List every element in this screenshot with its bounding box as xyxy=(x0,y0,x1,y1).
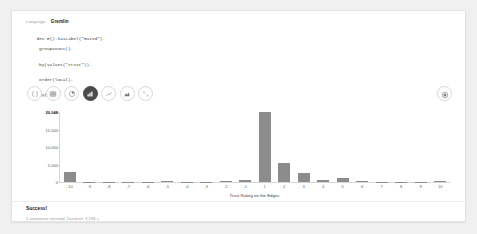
view-button-area-chart[interactable] xyxy=(120,86,135,101)
language-label: Language: xyxy=(26,19,47,24)
y-axis-tick xyxy=(58,130,60,131)
x-axis-tick-label: -7 xyxy=(126,184,130,189)
view-button-line-chart[interactable] xyxy=(101,86,116,101)
code-braces-icon xyxy=(31,90,39,98)
y-axis-tick xyxy=(58,112,60,113)
y-axis-tick xyxy=(58,182,60,183)
line-chart-icon xyxy=(105,90,113,98)
bar[interactable] xyxy=(239,180,251,182)
x-axis-tick-label: -6 xyxy=(146,184,150,189)
code-line: order(local). xyxy=(26,77,105,82)
bar-group[interactable]: 1 xyxy=(255,112,275,182)
y-axis-tick xyxy=(58,165,60,166)
bar[interactable] xyxy=(434,181,446,182)
x-axis-title: Trust Rating on the Edges xyxy=(59,193,450,198)
bar[interactable] xyxy=(298,173,310,182)
code-line: groupCount(). xyxy=(26,46,105,51)
bar-group[interactable]: 7 xyxy=(372,112,392,182)
x-axis-tick-label: -1 xyxy=(243,184,247,189)
x-axis-tick-label: 5 xyxy=(342,184,344,189)
y-axis-tick-label: 20,048 xyxy=(45,110,58,115)
code-line: dev.E().hasLabel("Rated"). xyxy=(37,36,106,41)
bar[interactable] xyxy=(161,181,173,182)
x-axis-tick-label: 4 xyxy=(322,184,324,189)
bar-chart: -10-9-8-7-6-5-4-3-2-112345678910 20,0481… xyxy=(26,109,454,201)
x-axis-tick-label: -3 xyxy=(204,184,208,189)
pie-chart-icon xyxy=(68,90,76,98)
bar-group[interactable]: -3 xyxy=(197,112,217,182)
x-axis-tick-label: 9 xyxy=(420,184,422,189)
x-axis-tick-label: -4 xyxy=(185,184,189,189)
bar[interactable] xyxy=(220,181,232,182)
x-axis-tick-label: 3 xyxy=(303,184,305,189)
x-axis-tick-label: 10 xyxy=(438,184,443,189)
bar-group[interactable]: 5 xyxy=(333,112,353,182)
area-chart-icon xyxy=(123,90,131,98)
bar-group[interactable]: 10 xyxy=(431,112,451,182)
bar[interactable] xyxy=(356,181,368,182)
code-line: by(values("trust")). xyxy=(26,62,105,67)
bar-group[interactable]: -5 xyxy=(158,112,178,182)
x-axis-tick-label: 6 xyxy=(361,184,363,189)
status-message: Success! xyxy=(26,206,47,211)
bar-group[interactable]: -10 xyxy=(60,112,80,182)
gear-icon xyxy=(441,85,449,103)
bar-group[interactable]: -8 xyxy=(99,112,119,182)
bar-group[interactable]: 6 xyxy=(353,112,373,182)
query-meta: 1 statement returned. Duration: 3.196 s xyxy=(26,216,99,221)
x-axis-tick-label: 7 xyxy=(381,184,383,189)
x-axis-tick-label: -5 xyxy=(165,184,169,189)
bar-group[interactable]: 2 xyxy=(275,112,295,182)
bar-group[interactable]: 3 xyxy=(294,112,314,182)
chart-settings-button[interactable] xyxy=(437,86,452,101)
bar[interactable] xyxy=(317,180,329,182)
y-axis-tick xyxy=(58,147,60,148)
view-button-pie-chart[interactable] xyxy=(64,86,79,101)
bar-chart-icon xyxy=(86,90,94,98)
x-axis-tick-label: 2 xyxy=(283,184,285,189)
x-axis-tick-label: 1 xyxy=(264,184,266,189)
query-result-card: Language: Gremlin dev.E().hasLabel("Rate… xyxy=(11,10,466,222)
view-button-bar-chart[interactable] xyxy=(83,86,98,101)
bar-group[interactable]: -7 xyxy=(119,112,139,182)
view-button-code[interactable] xyxy=(27,86,42,101)
bar[interactable] xyxy=(337,178,349,182)
bar-series: -10-9-8-7-6-5-4-3-2-112345678910 xyxy=(60,112,450,182)
view-mode-toolbar xyxy=(27,86,153,101)
table-icon xyxy=(49,90,57,98)
x-axis-tick-label: -2 xyxy=(224,184,228,189)
bar[interactable] xyxy=(259,112,271,182)
x-axis-tick-label: 8 xyxy=(400,184,402,189)
footer-divider xyxy=(12,201,465,202)
bar-group[interactable]: -4 xyxy=(177,112,197,182)
view-button-graph[interactable] xyxy=(138,86,153,101)
y-axis-tick-label: 10,000 xyxy=(45,145,58,150)
language-row: Language: Gremlin xyxy=(26,19,69,24)
language-value: Gremlin xyxy=(51,19,69,24)
bar-group[interactable]: -6 xyxy=(138,112,158,182)
bar-group[interactable]: 8 xyxy=(392,112,412,182)
graph-network-icon xyxy=(142,90,150,98)
x-axis-tick-label: -9 xyxy=(87,184,91,189)
bar-group[interactable]: -1 xyxy=(236,112,256,182)
bar-group[interactable]: -2 xyxy=(216,112,236,182)
view-button-table[interactable] xyxy=(46,86,61,101)
bar-group[interactable]: -9 xyxy=(80,112,100,182)
bar[interactable] xyxy=(278,163,290,182)
x-axis-tick-label: -8 xyxy=(107,184,111,189)
x-axis-tick-label: -10 xyxy=(67,184,73,189)
bar[interactable] xyxy=(64,172,76,182)
y-axis-tick-label: 15,000 xyxy=(45,127,58,132)
y-axis-tick-label: 5,000 xyxy=(48,162,58,167)
plot-area: -10-9-8-7-6-5-4-3-2-112345678910 20,0481… xyxy=(59,112,450,183)
bar-group[interactable]: 4 xyxy=(314,112,334,182)
bar-group[interactable]: 9 xyxy=(411,112,431,182)
